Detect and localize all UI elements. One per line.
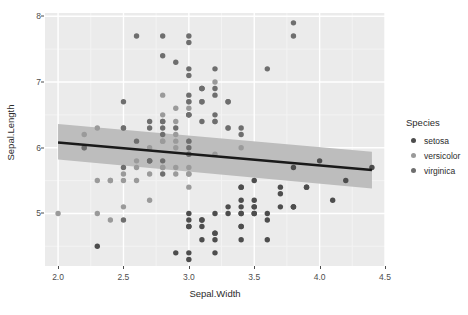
data-point <box>330 198 335 203</box>
data-point <box>199 86 204 91</box>
plot-panel <box>45 13 385 266</box>
x-tick-mark <box>189 266 190 269</box>
data-point <box>186 257 191 262</box>
data-point <box>186 66 191 71</box>
data-point <box>173 106 178 111</box>
x-tick-label: 4.5 <box>370 272 400 282</box>
data-point <box>95 211 100 216</box>
data-point <box>160 138 165 143</box>
data-point <box>265 211 270 216</box>
data-point <box>121 125 126 130</box>
data-point <box>212 79 217 84</box>
data-point <box>343 178 348 183</box>
data-point <box>121 204 126 209</box>
data-point <box>199 99 204 104</box>
data-point <box>212 237 217 242</box>
data-point <box>186 106 191 111</box>
data-point <box>108 178 113 183</box>
plot-canvas <box>45 13 385 266</box>
data-point <box>291 20 296 25</box>
data-point <box>160 53 165 58</box>
x-tick-label: 3.0 <box>174 272 204 282</box>
data-point <box>304 184 309 189</box>
data-point <box>252 198 257 203</box>
data-point <box>160 158 165 163</box>
data-point <box>186 92 191 97</box>
data-point <box>147 158 152 163</box>
data-point <box>160 119 165 124</box>
data-point <box>212 211 217 216</box>
x-tick-label: 3.5 <box>239 272 269 282</box>
data-point <box>238 132 243 137</box>
data-point <box>121 217 126 222</box>
y-tick-mark <box>41 16 44 17</box>
data-point <box>252 211 257 216</box>
data-point <box>186 138 191 143</box>
data-point <box>186 73 191 78</box>
data-point <box>238 224 243 229</box>
data-point <box>291 33 296 38</box>
data-point <box>186 145 191 150</box>
legend-dot-icon <box>411 168 416 173</box>
y-axis-title-text: Sepal.Length <box>5 105 16 161</box>
data-point <box>160 92 165 97</box>
y-tick-label: 6 <box>19 143 41 153</box>
legend-dot-icon <box>411 153 416 158</box>
x-tick-mark <box>123 266 124 269</box>
legend-key <box>406 133 421 148</box>
x-tick-mark <box>385 266 386 269</box>
data-point <box>225 125 230 130</box>
data-point <box>317 158 322 163</box>
legend-label: virginica <box>424 166 455 176</box>
x-axis-title: Sepal.Width <box>45 288 385 299</box>
data-point <box>186 217 191 222</box>
legend-item-versicolor[interactable]: versicolor <box>406 148 468 163</box>
data-point <box>212 112 217 117</box>
data-point <box>82 132 87 137</box>
data-point <box>121 165 126 170</box>
data-point <box>147 125 152 130</box>
data-point <box>121 178 126 183</box>
data-point <box>147 119 152 124</box>
data-point <box>291 165 296 170</box>
data-point <box>95 125 100 130</box>
x-tick-mark <box>254 266 255 269</box>
data-point <box>212 250 217 255</box>
y-tick-label: 5 <box>19 208 41 218</box>
data-point <box>173 145 178 150</box>
x-tick-label: 2.0 <box>43 272 73 282</box>
legend-label: versicolor <box>424 151 460 161</box>
x-axis-title-text: Sepal.Width <box>189 288 240 299</box>
data-point <box>173 60 178 65</box>
data-point <box>252 178 257 183</box>
data-point <box>199 217 204 222</box>
data-point <box>134 158 139 163</box>
data-point <box>160 171 165 176</box>
data-point <box>173 165 178 170</box>
data-point <box>225 204 230 209</box>
data-point <box>173 171 178 176</box>
data-point <box>186 250 191 255</box>
legend-item-setosa[interactable]: setosa <box>406 133 468 148</box>
scatter-plot-figure: Sepal.Length 5678 2.02.53.03.54.04.5 Sep… <box>0 0 468 315</box>
x-tick-mark <box>320 266 321 269</box>
data-point <box>199 224 204 229</box>
data-point <box>121 99 126 104</box>
x-tick-label: 2.5 <box>108 272 138 282</box>
legend-dot-icon <box>411 138 416 143</box>
data-point <box>186 33 191 38</box>
data-point <box>186 112 191 117</box>
data-point <box>160 112 165 117</box>
data-point <box>265 217 270 222</box>
data-point <box>212 86 217 91</box>
data-point <box>265 237 270 242</box>
data-point <box>278 191 283 196</box>
data-point <box>225 211 230 216</box>
data-point <box>186 224 191 229</box>
data-point <box>186 99 191 104</box>
legend-item-virginica[interactable]: virginica <box>406 163 468 178</box>
x-axis-tick-labels: 2.02.53.03.54.04.5 <box>0 272 400 286</box>
data-point <box>212 92 217 97</box>
x-tick-mark <box>58 266 59 269</box>
data-point <box>278 204 283 209</box>
